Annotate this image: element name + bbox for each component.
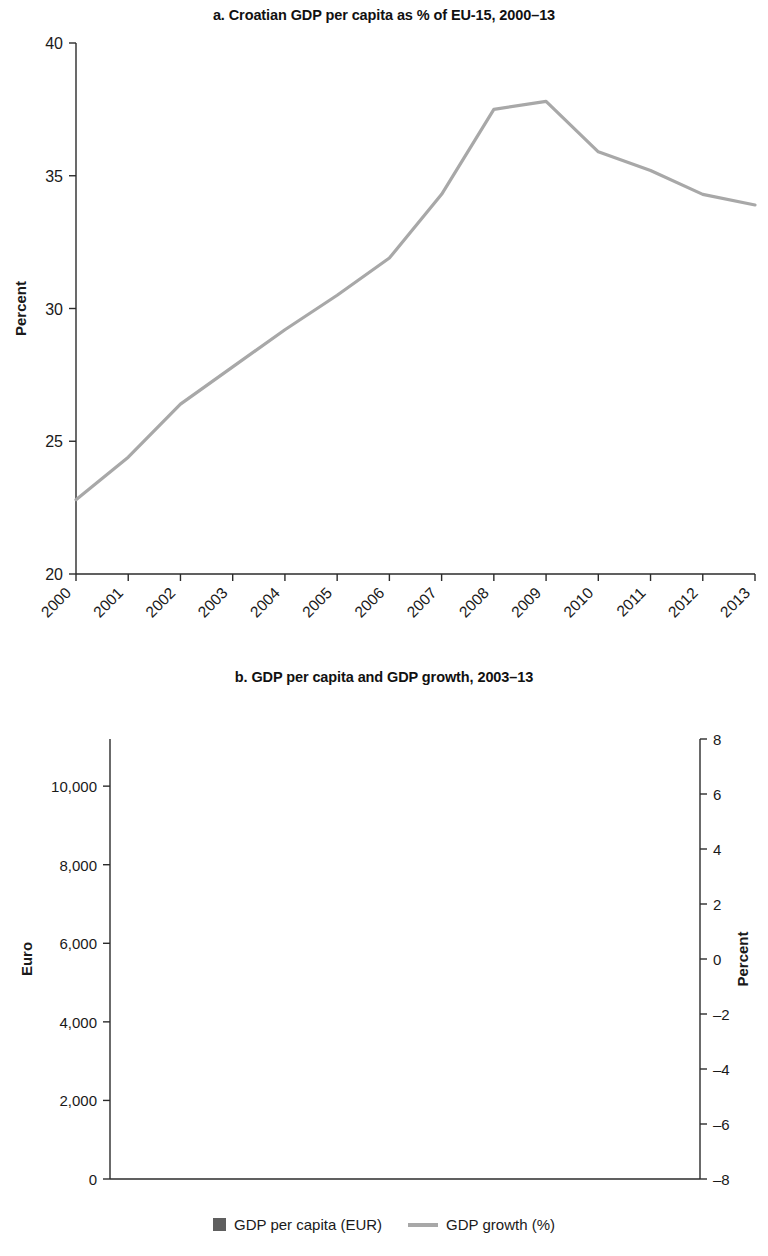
panel-a-y-tick-label: 30 <box>45 301 63 318</box>
panel-a-chart: 2025303540200020012002200320042005200620… <box>0 23 768 643</box>
panel-a-x-tick-label: 2001 <box>90 584 126 620</box>
panel-a-y-tick-label: 20 <box>45 566 63 583</box>
panel-b-left-tick-label: 2,000 <box>59 1092 97 1109</box>
panel-a-title: a. Croatian GDP per capita as % of EU-15… <box>0 0 768 23</box>
panel-a-y-tick-label: 40 <box>45 35 63 52</box>
panel-b-left-tick-label: 4,000 <box>59 1014 97 1031</box>
panel-b-right-tick-label: 2 <box>713 896 721 913</box>
panel-b-title: b. GDP per capita and GDP growth, 2003–1… <box>0 650 768 685</box>
legend-line-swatch-icon <box>408 1223 438 1227</box>
panel-b-right-tick-label: –8 <box>713 1171 730 1188</box>
panel-b-left-tick-label: 0 <box>89 1171 97 1188</box>
legend-item-bar: GDP per capita (EUR) <box>213 1216 382 1233</box>
panel-a-data-line <box>76 101 755 499</box>
panel-b-left-tick-label: 8,000 <box>59 857 97 874</box>
legend-item-line: GDP growth (%) <box>408 1216 555 1233</box>
panel-a-figure: a. Croatian GDP per capita as % of EU-15… <box>0 0 768 650</box>
panel-b-right-tick-label: 6 <box>713 786 721 803</box>
panel-a-y-tick-label: 25 <box>45 433 63 450</box>
panel-b-right-tick-label: 4 <box>713 841 721 858</box>
chart-legend: GDP per capita (EUR) GDP growth (%) <box>0 1216 768 1233</box>
panel-a-y-tick-label: 35 <box>45 168 63 185</box>
panel-a-x-tick-label: 2003 <box>194 584 230 620</box>
panel-a-x-tick-label: 2013 <box>717 584 753 620</box>
panel-b-left-tick-label: 6,000 <box>59 935 97 952</box>
panel-a-x-tick-label: 2012 <box>664 584 700 620</box>
panel-a-x-tick-label: 2002 <box>142 584 178 620</box>
panel-b-right-tick-label: –6 <box>713 1116 730 1133</box>
panel-b-figure: b. GDP per capita and GDP growth, 2003–1… <box>0 650 768 1256</box>
panel-b-chart: 02,0004,0006,0008,00010,000–8–6–4–202468… <box>0 685 768 1225</box>
panel-b-right-tick-label: 0 <box>713 951 721 968</box>
panel-a-x-tick-label: 2009 <box>508 584 544 620</box>
panel-a-x-tick-label: 2006 <box>351 584 387 620</box>
legend-bar-label: GDP per capita (EUR) <box>234 1216 382 1233</box>
panel-a-x-tick-label: 2008 <box>456 584 492 620</box>
panel-b-left-axis-title: Euro <box>18 942 35 976</box>
panel-a-y-axis-title: Percent <box>12 281 29 336</box>
panel-b-right-tick-label: –2 <box>713 1006 730 1023</box>
legend-line-label: GDP growth (%) <box>446 1216 555 1233</box>
panel-b-right-tick-label: 8 <box>713 731 721 748</box>
panel-a-x-tick-label: 2005 <box>299 584 335 620</box>
panel-a-x-tick-label: 2010 <box>560 584 597 621</box>
panel-a-x-tick-label: 2007 <box>403 584 439 620</box>
panel-a-x-tick-label: 2000 <box>38 584 75 621</box>
legend-bar-swatch-icon <box>213 1218 226 1231</box>
panel-b-left-tick-label: 10,000 <box>51 778 97 795</box>
panel-b-right-tick-label: –4 <box>713 1061 730 1078</box>
panel-a-x-tick-label: 2004 <box>247 584 284 621</box>
panel-b-right-axis-title: Percent <box>734 931 751 986</box>
panel-a-x-tick-label: 2011 <box>613 584 649 620</box>
